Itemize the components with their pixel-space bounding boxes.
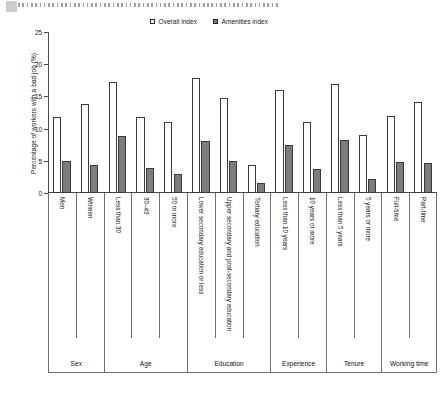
bar-overall-index (331, 84, 339, 193)
category-cell: Lower secondary education or less (187, 193, 215, 338)
category-cell: Less than 10 years (270, 193, 298, 338)
group-label: Age (140, 360, 152, 367)
bar-overall-index (81, 104, 89, 193)
bar-overall-index (192, 78, 200, 193)
bar-amenities-index (201, 141, 209, 193)
bar-amenities-index (313, 169, 321, 193)
category-cell: Upper secondary and post-secondary educa… (215, 193, 243, 338)
bar-amenities-index (257, 183, 265, 193)
group-cell: Experience (270, 338, 326, 372)
category-label: Part-time (420, 197, 427, 223)
category-label: Less than 10 years (281, 197, 288, 250)
bar-overall-index (414, 102, 422, 193)
bar-overall-index (164, 122, 172, 193)
group-label: Working time (390, 360, 428, 367)
group-label: Tenure (344, 360, 364, 367)
bar-overall-index (248, 165, 256, 193)
bar-amenities-index (285, 145, 293, 193)
bar-amenities-index (229, 161, 237, 193)
category-label: Lower secondary education or less (198, 197, 205, 294)
group-label: Sex (71, 360, 82, 367)
legend-item-amenities-index: Amenities index (213, 18, 268, 25)
bar-amenities-index (424, 163, 432, 193)
category-label: Tertiary education (253, 197, 260, 247)
category-cell: Less than 30 (104, 193, 132, 338)
category-cell: 50 or more (159, 193, 187, 338)
group-cell: Sex (48, 338, 104, 372)
y-axis-tick-label: 10 (35, 125, 42, 132)
legend-label-amenities-index: Amenities index (221, 18, 268, 25)
group-axis: SexAgeEducationExperienceTenureWorking t… (48, 338, 437, 372)
legend-item-overall-index: Overall index (150, 18, 197, 25)
category-label: 5 years or more (365, 197, 372, 241)
bar-overall-index (275, 90, 283, 193)
bar-amenities-index (90, 165, 98, 193)
bar-amenities-index (340, 140, 348, 193)
bars-container (48, 32, 437, 193)
bar-amenities-index (368, 179, 376, 193)
bar-overall-index (220, 98, 228, 193)
category-label: Less than 5 years (337, 197, 344, 247)
y-axis-tick-label: 15 (35, 93, 42, 100)
chart-figure: Percentage of workers with a bad job (%)… (0, 12, 447, 400)
bar-overall-index (303, 122, 311, 193)
category-cell: Men (48, 193, 76, 338)
y-axis-tick-label: 25 (35, 29, 42, 36)
group-cell: Tenure (326, 338, 382, 372)
dotted-ruler-icon (18, 3, 278, 7)
category-cell: Full-time (381, 193, 409, 338)
top-ruler-strip (0, 0, 447, 12)
group-axis-bottom-rule (48, 372, 437, 373)
category-cell: Less than 5 years (326, 193, 354, 338)
bar-overall-index (109, 82, 117, 193)
category-cell: 10 years or more (298, 193, 326, 338)
bar-amenities-index (146, 168, 154, 193)
category-axis: MenWomenLess than 3030–4950 or moreLower… (48, 193, 437, 338)
legend-swatch-open-square-icon (150, 19, 155, 24)
group-cell: Education (187, 338, 270, 372)
group-label: Education (214, 360, 243, 367)
bar-amenities-index (396, 162, 404, 193)
bar-amenities-index (62, 161, 70, 193)
group-label: Experience (282, 360, 315, 367)
category-label: Upper secondary and post-secondary educa… (226, 197, 233, 331)
y-axis-tick-label: 0 (38, 190, 42, 197)
chart-legend: Overall index Amenities index (150, 18, 268, 25)
category-cell: 5 years or more (354, 193, 382, 338)
category-label: Women (87, 197, 94, 219)
category-cell: 30–49 (131, 193, 159, 338)
group-cell: Working time (381, 338, 437, 372)
bar-amenities-index (118, 136, 126, 193)
category-label: 30–49 (142, 197, 149, 215)
y-axis-tick-label: 5 (38, 157, 42, 164)
group-cell: Age (104, 338, 187, 372)
page-tab-marker-icon (6, 1, 17, 12)
category-cell: Tertiary education (243, 193, 271, 338)
category-label: 50 or more (170, 197, 177, 227)
category-label: Full-time (392, 197, 399, 221)
bar-overall-index (53, 117, 61, 193)
bar-overall-index (136, 117, 144, 193)
legend-label-overall-index: Overall index (159, 18, 197, 25)
y-axis-title: Percentage of workers with a bad job (%) (30, 34, 37, 194)
bar-amenities-index (174, 174, 182, 193)
legend-swatch-filled-square-icon (213, 19, 218, 24)
category-label: Men (59, 197, 66, 209)
bar-overall-index (359, 135, 367, 193)
category-label: Less than 30 (114, 197, 121, 233)
category-label: 10 years or more (309, 197, 316, 245)
category-cell: Women (76, 193, 104, 338)
y-axis-tick-label: 20 (35, 61, 42, 68)
category-cell: Part-time (409, 193, 437, 338)
bar-overall-index (387, 116, 395, 193)
plot-area: 0510152025 (48, 32, 437, 193)
